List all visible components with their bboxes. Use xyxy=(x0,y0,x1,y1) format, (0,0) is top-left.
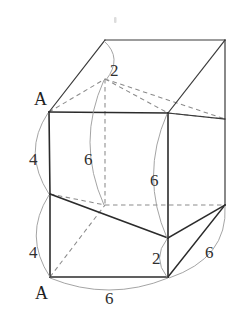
edge-front-left-upper xyxy=(49,112,50,194)
dim-left-lower-4: 4 xyxy=(29,243,38,262)
edge-top-left-slant xyxy=(49,40,105,112)
solid-edges-group xyxy=(49,40,225,277)
dim-far-right-6: 6 xyxy=(205,243,214,262)
edge-right-cut-slant xyxy=(168,205,225,238)
hidden-edges-group xyxy=(49,79,225,277)
dim-left-upper-4: 4 xyxy=(29,150,38,169)
arc-bottom-right-2 xyxy=(160,239,168,277)
dim-bottom-right-2: 2 xyxy=(152,249,161,268)
arc-far-right-6 xyxy=(169,206,225,278)
dim-top-2: 2 xyxy=(110,61,119,80)
hidden-edge-front-mid-left-to-back-bottom xyxy=(50,194,105,205)
measurement-arcs-group xyxy=(35,41,225,290)
edge-right-bottom-slant xyxy=(168,205,225,277)
geometry-figure: A A 2 4 6 6 4 2 6 6 xyxy=(0,0,239,316)
dim-right-6: 6 xyxy=(150,171,159,190)
hidden-edge-back-top-to-front-top-right xyxy=(105,79,168,113)
figure-canvas: A A 2 4 6 6 4 2 6 6 xyxy=(0,0,239,316)
arc-left-lower-4 xyxy=(36,195,50,277)
dim-center-6: 6 xyxy=(84,150,93,169)
vertex-label-a-top: A xyxy=(34,89,47,109)
dim-bottom-6: 6 xyxy=(105,289,114,308)
hidden-edge-front-bottom-left-to-back-bottom xyxy=(50,205,105,277)
vertex-label-a-bottom: A xyxy=(35,283,48,303)
edge-cut-slant-front xyxy=(50,194,168,238)
arc-center-6 xyxy=(90,80,104,205)
stray-mark xyxy=(114,17,117,23)
edge-right-top-front xyxy=(168,113,225,119)
hidden-edge-front-top-left-to-back-top xyxy=(49,79,105,112)
edge-top-right-slant xyxy=(168,40,225,113)
edge-front-top xyxy=(49,112,168,113)
